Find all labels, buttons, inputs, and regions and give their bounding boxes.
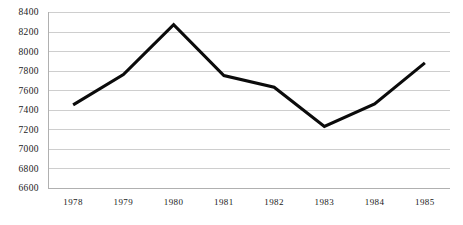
y-axis-tick-labels: 6600680070007200740076007800800082008400 (18, 7, 39, 193)
series-line-0 (73, 25, 425, 127)
y-tick-label-7200: 7200 (18, 125, 39, 135)
y-tick-label-6800: 6800 (18, 164, 39, 174)
y-tick-label-7400: 7400 (18, 105, 39, 115)
line-chart: 6600680070007200740076007800800082008400… (0, 0, 463, 225)
x-tick-label-1985: 1985 (415, 197, 435, 207)
x-tick-label-1981: 1981 (214, 197, 234, 207)
data-series (73, 25, 425, 127)
x-tick-label-1982: 1982 (264, 197, 284, 207)
y-tick-label-8400: 8400 (18, 7, 39, 17)
x-tick-label-1979: 1979 (114, 197, 134, 207)
y-tick-label-7600: 7600 (18, 86, 39, 96)
x-tick-label-1983: 1983 (315, 197, 335, 207)
x-tick-label-1978: 1978 (63, 197, 83, 207)
y-tick-label-6600: 6600 (18, 183, 39, 193)
y-tick-label-8200: 8200 (18, 27, 39, 37)
x-tick-label-1984: 1984 (365, 197, 385, 207)
x-axis-tick-labels: 19781979198019811982198319841985 (63, 197, 434, 207)
x-tick-label-1980: 1980 (164, 197, 184, 207)
y-tick-label-7000: 7000 (18, 144, 39, 154)
axis-lines (48, 12, 450, 189)
chart-canvas: 6600680070007200740076007800800082008400… (0, 0, 463, 225)
y-tick-label-7800: 7800 (18, 66, 39, 76)
gridlines (48, 13, 450, 189)
y-tick-label-8000: 8000 (18, 47, 39, 57)
